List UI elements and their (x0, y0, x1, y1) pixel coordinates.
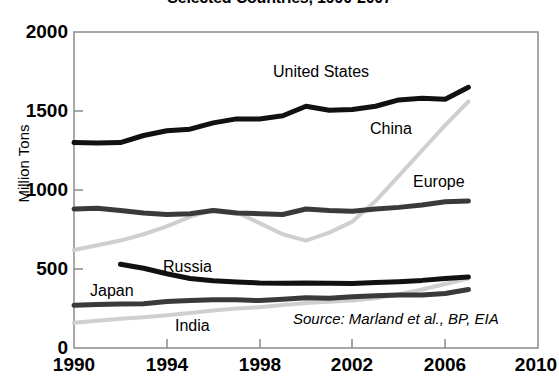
source-note: Source: Marland et al., BP, EIA (293, 310, 499, 327)
series-label-china: China (370, 120, 412, 138)
series-label-japan: Japan (90, 282, 134, 300)
series-label-europe: Europe (413, 173, 465, 191)
series-line-europe (74, 201, 468, 214)
series-label-india: India (175, 317, 210, 335)
series-label-russia: Russia (163, 258, 212, 276)
series-label-united-states: United States (273, 63, 369, 81)
y-tick-marks (74, 111, 83, 269)
x-tick-marks (167, 339, 445, 348)
chart-figure: Selected Countries, 1990-2007 Million To… (0, 0, 559, 392)
plot-area (0, 0, 559, 392)
